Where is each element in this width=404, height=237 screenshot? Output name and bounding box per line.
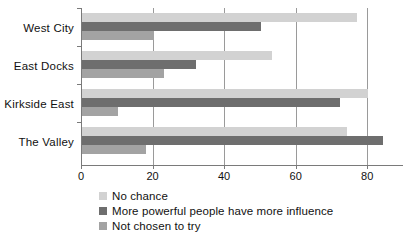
x-tick-label-20: 20	[146, 170, 158, 182]
x-axis-line	[81, 165, 403, 166]
category-label-the-valley: The Valley	[0, 136, 74, 148]
x-tick-40	[224, 165, 225, 169]
bar	[82, 89, 368, 98]
x-tick-0	[81, 165, 82, 169]
legend-label: More powerful people have more influence	[112, 205, 333, 217]
x-tick-label-80: 80	[361, 170, 373, 182]
bar	[82, 31, 154, 40]
chart-legend: No chanceMore powerful people have more …	[99, 188, 333, 233]
x-tick-label-0: 0	[78, 170, 84, 182]
legend-swatch-icon	[99, 192, 107, 200]
y-tick	[77, 8, 82, 9]
x-tick-60	[296, 165, 297, 169]
bar	[82, 107, 118, 116]
legend-swatch-icon	[99, 207, 107, 215]
legend-item[interactable]: Not chosen to try	[99, 218, 333, 233]
legend-item[interactable]: More powerful people have more influence	[99, 203, 333, 218]
plot-area	[81, 8, 403, 166]
bar	[82, 98, 340, 107]
bar	[82, 51, 272, 60]
bar-chart: West City East Docks Kirkside East The V…	[0, 0, 404, 237]
bar	[82, 136, 383, 145]
x-tick-20	[153, 165, 154, 169]
x-tick-label-40: 40	[218, 170, 230, 182]
legend-label: Not chosen to try	[112, 220, 201, 232]
bar	[82, 69, 164, 78]
x-tick-label-60: 60	[290, 170, 302, 182]
bar	[82, 22, 261, 31]
x-tick-80	[367, 165, 368, 169]
legend-item[interactable]: No chance	[99, 188, 333, 203]
bar	[82, 60, 196, 69]
category-label-kirkside-east: Kirkside East	[0, 98, 74, 110]
legend-swatch-icon	[99, 222, 107, 230]
bar	[82, 145, 146, 154]
legend-label: No chance	[112, 190, 168, 202]
category-label-east-docks: East Docks	[0, 60, 74, 72]
bar	[82, 13, 357, 22]
bar	[82, 127, 347, 136]
y-tick	[77, 122, 82, 123]
y-tick	[77, 46, 82, 47]
y-tick	[77, 84, 82, 85]
category-label-west-city: West City	[0, 22, 74, 34]
